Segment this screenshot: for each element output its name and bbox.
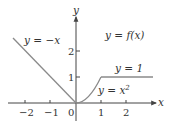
y-tick-label: 2 <box>68 46 74 57</box>
y-axis-label: y <box>72 4 80 16</box>
x-tick-label: −2 <box>19 107 34 118</box>
piecewise-graph: y x −2 −1 0 1 2 1 2 y = f(x) y = −x y = … <box>0 0 172 126</box>
x-tick-label: 2 <box>123 107 129 118</box>
title-label: y = f(x) <box>104 29 144 41</box>
x-axis-label: x <box>158 96 164 108</box>
x-tick-label: −1 <box>44 107 59 118</box>
x-tick-label: 1 <box>98 107 104 118</box>
label-neg-x: y = −x <box>23 34 60 46</box>
label-x-squared-base: y = x <box>97 84 125 96</box>
label-x-squared-exp: 2 <box>124 84 130 92</box>
x-tick-label: 0 <box>68 107 74 118</box>
label-x-squared: y = x2 <box>97 84 130 96</box>
curve-neg-x <box>13 38 76 103</box>
y-tick-label: 1 <box>68 72 74 83</box>
y-ticks <box>76 51 80 77</box>
label-one: y = 1 <box>114 62 143 74</box>
